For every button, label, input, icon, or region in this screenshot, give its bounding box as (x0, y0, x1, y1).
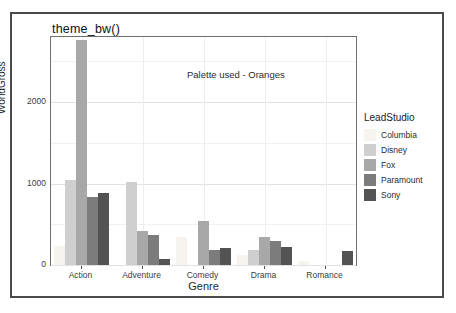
legend-item: Paramount (364, 173, 444, 187)
bar (281, 247, 292, 265)
legend-item-label: Disney (381, 145, 407, 155)
legend-swatch-icon (364, 129, 376, 141)
y-tick-label: 0 (41, 259, 46, 269)
bar (159, 259, 170, 265)
legend-item-label: Fox (381, 160, 395, 170)
y-tick-label: 2000 (27, 96, 46, 106)
bar (98, 193, 109, 265)
bar (342, 251, 353, 265)
legend-item: Columbia (364, 128, 444, 142)
legend-swatch-icon (364, 189, 376, 201)
legend-item-label: Sony (381, 190, 400, 200)
legend-item-label: Columbia (381, 130, 417, 140)
palette-annotation: Palette used - Oranges (187, 69, 285, 80)
bar (237, 255, 248, 265)
x-tick-label: Comedy (187, 270, 219, 280)
bar (148, 235, 159, 265)
legend-title: LeadStudio (364, 112, 444, 123)
bar (76, 40, 87, 265)
x-tick-mark (203, 266, 204, 269)
y-axis-title: WorldGross (0, 61, 7, 114)
x-tick-label: Action (69, 270, 93, 280)
x-tick-mark (142, 266, 143, 269)
legend-swatch-icon (364, 159, 376, 171)
legend-swatch-icon (364, 144, 376, 156)
bar (270, 241, 281, 265)
x-tick-mark (264, 266, 265, 269)
figure-frame: theme_bw() 010002000 ActionAdventureCome… (10, 12, 444, 298)
x-tick-mark (325, 266, 326, 269)
x-axis-title: Genre (50, 280, 357, 292)
bar (54, 246, 65, 265)
bar (198, 221, 209, 265)
bar (65, 180, 76, 265)
bar (220, 248, 231, 265)
legend-item: Disney (364, 143, 444, 157)
bar (137, 231, 148, 265)
legend-item: Sony (364, 188, 444, 202)
bar (87, 197, 98, 265)
x-tick-label: Romance (306, 270, 342, 280)
x-tick-mark (81, 266, 82, 269)
legend-rows: ColumbiaDisneyFoxParamountSony (364, 128, 444, 202)
chart-title: theme_bw() (52, 22, 120, 36)
bar (298, 261, 309, 265)
bar (259, 237, 270, 265)
legend: LeadStudio ColumbiaDisneyFoxParamountSon… (364, 112, 444, 203)
gridline-major (51, 265, 356, 266)
x-tick-label: Adventure (122, 270, 161, 280)
bar (209, 250, 220, 265)
x-tick-label: Drama (251, 270, 277, 280)
y-axis-ticks: 010002000 (24, 36, 46, 266)
bar (248, 250, 259, 265)
bar (126, 182, 137, 265)
legend-swatch-icon (364, 174, 376, 186)
legend-item-label: Paramount (381, 175, 423, 185)
legend-item: Fox (364, 158, 444, 172)
bar (176, 237, 187, 265)
y-tick-label: 1000 (27, 178, 46, 188)
